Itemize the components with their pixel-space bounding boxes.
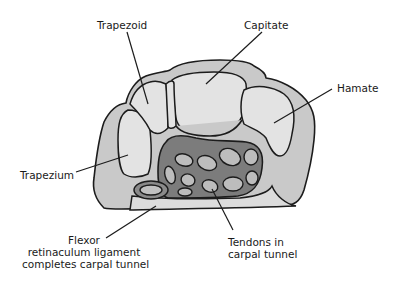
tendons-label-line1: Tendons in — [228, 236, 297, 248]
tendon — [244, 149, 258, 165]
tendons-label: Tendons in carpal tunnel — [228, 236, 297, 260]
tendons-label-line2: carpal tunnel — [228, 248, 297, 260]
tendon — [178, 188, 192, 196]
bone-sliver — [166, 81, 176, 128]
trapezium-label: Trapezium — [20, 169, 74, 181]
flexor-label-line1: Flexor — [22, 234, 146, 246]
tendon — [223, 177, 243, 191]
hamate-label: Hamate — [337, 82, 379, 94]
flexor-label-line2: retinaculum ligament — [22, 246, 146, 258]
trapezoid-label: Trapezoid — [97, 19, 147, 31]
flexor-label-line3: completes carpal tunnel — [22, 258, 146, 270]
flexor-retinaculum-label: Flexor retinaculum ligament completes ca… — [22, 234, 146, 270]
tendon — [246, 171, 258, 185]
median-nerve-inner — [140, 185, 162, 195]
capitate-label: Capitate — [244, 19, 288, 31]
